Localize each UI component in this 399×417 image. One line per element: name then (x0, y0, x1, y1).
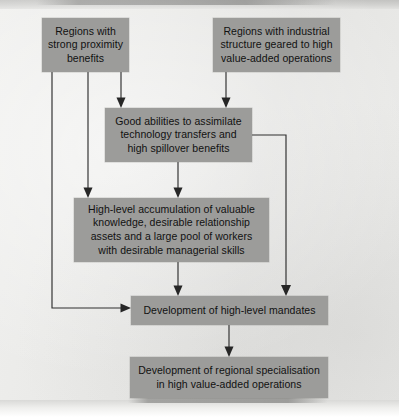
edge-assimilate-to-accumulation (174, 162, 183, 198)
flowchart-page: Regions withstrong proximitybenefits Reg… (0, 0, 399, 417)
edge-mandates-to-specialisation (225, 325, 234, 357)
node-mandates-label: Development of high-level mandates (143, 304, 315, 318)
node-accumulation[interactable]: High-level accumulation of valuableknowl… (74, 198, 269, 262)
node-regions-industrial-label: Regions with industrialstructure geared … (220, 25, 332, 66)
node-specialisation-label: Development of regional specialisationin… (138, 364, 320, 391)
node-regions-proximity-label: Regions withstrong proximitybenefits (48, 25, 123, 66)
node-mandates[interactable]: Development of high-level mandates (131, 296, 328, 325)
edge-proximity-to-assimilate (117, 72, 126, 108)
node-regions-proximity[interactable]: Regions withstrong proximitybenefits (42, 18, 129, 72)
node-assimilate[interactable]: Good abilities to assimilatetechnology t… (105, 108, 252, 162)
edge-proximity-to-accumulation (84, 72, 93, 198)
node-regions-industrial[interactable]: Regions with industrialstructure geared … (213, 18, 340, 72)
node-specialisation[interactable]: Development of regional specialisationin… (130, 357, 328, 398)
node-accumulation-label: High-level accumulation of valuableknowl… (88, 203, 255, 258)
edge-accumulation-to-mandates (174, 262, 183, 296)
edge-industrial-to-assimilate (222, 72, 231, 108)
node-assimilate-label: Good abilities to assimilatetechnology t… (115, 115, 241, 156)
